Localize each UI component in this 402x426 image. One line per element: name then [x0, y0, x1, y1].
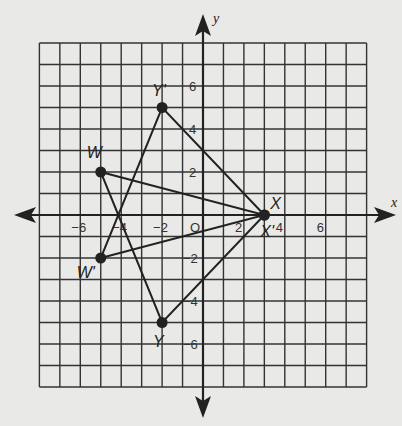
x-tick-label: 6	[317, 220, 324, 235]
y-tick-label: −2	[183, 251, 198, 266]
y-tick-label: −4	[183, 294, 198, 309]
axes: xy	[14, 11, 398, 418]
y-tick-label: 6	[189, 79, 196, 94]
y-tick-label: −6	[183, 337, 198, 352]
point-label: W'	[77, 264, 96, 281]
y-axis-label: y	[211, 11, 220, 26]
x-tick-label: 4	[276, 220, 283, 235]
point-marker	[259, 210, 270, 221]
point-marker	[157, 317, 168, 328]
point-label: Y	[153, 333, 165, 350]
point-label: X	[269, 195, 282, 212]
point-marker	[95, 253, 106, 264]
y-tick-label: 4	[189, 122, 196, 137]
point-label: Y'	[152, 82, 167, 99]
point-label: W	[87, 144, 104, 161]
y-tick-label: 2	[189, 165, 196, 180]
point-label: X'	[259, 223, 275, 240]
point-marker	[95, 167, 106, 178]
x-tick-label: −6	[71, 220, 86, 235]
coordinate-plane: xy −6−4−2O246642−2−4−6 WXYW'X'Y'	[0, 0, 402, 426]
x-tick-label: −2	[153, 220, 168, 235]
point-marker	[157, 102, 168, 113]
x-axis-label: x	[390, 195, 398, 210]
